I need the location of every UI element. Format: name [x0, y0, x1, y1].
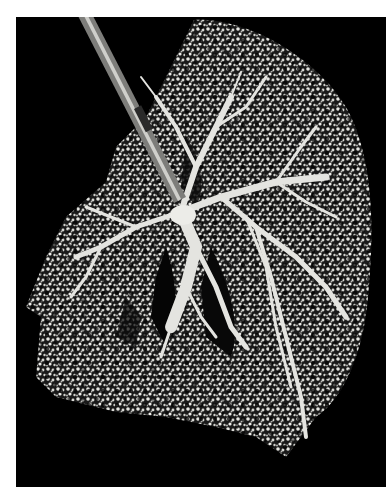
lung-cast-photo: Black and white photograph of a resin ca…: [16, 17, 386, 487]
lung-cast-illustration: [16, 17, 386, 487]
